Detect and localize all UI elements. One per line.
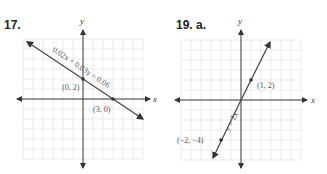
point-label-3-0: (3, 0) [93, 105, 111, 114]
point-0-2 [81, 77, 85, 81]
graph-17: x y 0.02x + 0.03y = 0.06 (0, 2) (3, 0) [17, 16, 157, 168]
equation-label-19a: y = 2x [223, 111, 240, 133]
graph-19a: x y y = 2x (1, 2) (−2, −4) [175, 16, 315, 168]
graphs-canvas: x y 0.02x + 0.03y = 0.06 (0, 2) (3, 0) [0, 0, 327, 174]
y-label-19a: y [237, 16, 242, 26]
x-label-19a: x [310, 95, 315, 105]
line-19a [241, 42, 270, 100]
point-1-2 [249, 78, 253, 82]
point-label-0-2: (0, 2) [62, 83, 80, 92]
point-label-neg2-neg4: (−2, −4) [177, 136, 204, 145]
x-label-17: x [152, 94, 157, 104]
equation-label-17: 0.02x + 0.03y = 0.06 [51, 45, 112, 90]
point-3-0 [111, 97, 115, 101]
point-label-1-2: (1, 2) [257, 81, 275, 90]
point-neg2-neg4 [219, 138, 223, 142]
y-label-17: y [79, 16, 84, 26]
